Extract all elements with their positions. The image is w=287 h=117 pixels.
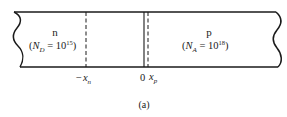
minus-xn-label: −xn (76, 72, 92, 86)
origin-label: 0 (140, 72, 145, 83)
n-region-doping-label: (ND = 1015) (29, 39, 77, 54)
xp-label: xp (148, 71, 158, 85)
n-region-type-label: n (52, 26, 58, 38)
p-region-doping-label: (NA = 1018) (182, 39, 229, 54)
pn-junction-diagram: n (ND = 1015) p (NA = 1018) −xn 0 xp (a) (0, 0, 287, 117)
figure-caption: (a) (138, 99, 149, 111)
right-break-edge (273, 12, 281, 67)
p-region-type-label: p (206, 26, 212, 38)
left-break-edge (13, 12, 22, 67)
